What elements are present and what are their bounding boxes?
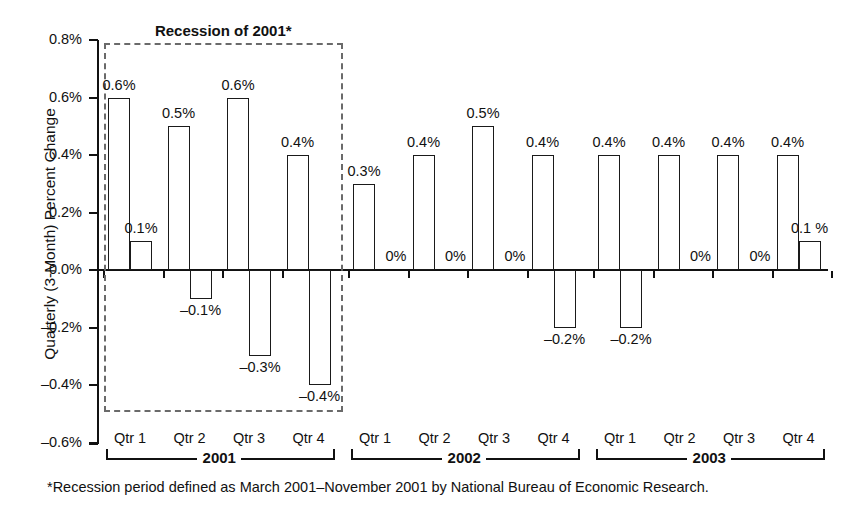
y-axis-tick-label: 0.0% — [20, 261, 82, 277]
bar-value-label: 0.4% — [700, 134, 756, 150]
bar-value-label: 0.1 % — [782, 220, 838, 236]
year-bracket-line — [351, 458, 442, 460]
x-axis-tick-mark — [772, 271, 774, 278]
x-axis-tick-mark — [653, 271, 655, 278]
bar-secondary — [554, 270, 576, 328]
year-label: 2001 — [189, 449, 249, 466]
bar-value-label: 0.4% — [581, 134, 637, 150]
x-axis-tick-mark — [467, 271, 469, 278]
y-axis-tick-label: 0.6% — [20, 89, 82, 105]
quarter-tick-label: Qtr 1 — [590, 430, 650, 446]
recession-label: Recession of 2001* — [104, 22, 343, 39]
quarter-tick-label: Qtr 1 — [100, 430, 160, 446]
bar-value-label: 0.1% — [113, 220, 169, 236]
bar-secondary — [799, 241, 821, 270]
bar-primary — [227, 98, 249, 271]
bar-value-label: 0.6% — [91, 77, 147, 93]
quarter-tick-label: Qtr 3 — [709, 430, 769, 446]
year-bracket-line — [731, 458, 822, 460]
quarter-tick-label: Qtr 2 — [160, 430, 220, 446]
bar-value-label: 0.4% — [515, 134, 571, 150]
year-bracket-line — [106, 458, 197, 460]
year-label: 2002 — [434, 449, 494, 466]
year-bracket-line — [596, 458, 687, 460]
y-axis-tick-label: –0.6% — [20, 434, 82, 450]
year-label: 2003 — [679, 449, 739, 466]
x-axis-tick-mark — [593, 271, 595, 278]
bar-secondary — [190, 270, 212, 299]
year-bracket-line — [241, 458, 332, 460]
bar-value-label: 0.4% — [641, 134, 697, 150]
bar-value-label: 0.4% — [760, 134, 816, 150]
bar-secondary — [249, 270, 271, 356]
bar-secondary — [620, 270, 642, 328]
bar-primary — [168, 126, 190, 270]
x-axis-tick-mark — [712, 271, 714, 278]
bar-value-label: 0.4% — [396, 134, 452, 150]
bar-primary — [287, 155, 309, 270]
quarter-tick-label: Qtr 2 — [650, 430, 710, 446]
x-axis-tick-mark — [408, 271, 410, 278]
bar-value-label: 0.3% — [336, 163, 392, 179]
y-axis-tick-label: 0.4% — [20, 146, 82, 162]
footnote-text: *Recession period defined as March 2001–… — [47, 479, 709, 495]
y-axis-tick-label: –0.4% — [20, 376, 82, 392]
quarter-tick-label: Qtr 2 — [405, 430, 465, 446]
quarter-tick-label: Qtr 3 — [219, 430, 279, 446]
year-bracket-tick — [333, 449, 335, 460]
bar-primary — [108, 98, 130, 271]
quarter-tick-label: Qtr 1 — [345, 430, 405, 446]
year-bracket-tick — [578, 449, 580, 460]
bar-value-label: 0.5% — [455, 105, 511, 121]
bar-value-label: –0.4% — [292, 388, 348, 404]
year-bracket-tick — [823, 449, 825, 460]
quarter-tick-label: Qtr 3 — [464, 430, 524, 446]
bar-value-label: 0.5% — [151, 105, 207, 121]
chart-canvas: Quarterly (3-Month) Percent Change 0.8%0… — [0, 0, 863, 516]
y-axis-line — [97, 40, 99, 444]
y-axis-tick-label: –0.2% — [20, 319, 82, 335]
bar-secondary — [309, 270, 331, 385]
bar-primary — [777, 155, 799, 270]
y-axis-tick-label: 0.8% — [20, 31, 82, 47]
x-axis-tick-mark — [348, 271, 350, 278]
x-axis-tick-mark — [527, 271, 529, 278]
year-bracket-line — [486, 458, 577, 460]
y-axis-tick-label: 0.2% — [20, 204, 82, 220]
quarter-tick-label: Qtr 4 — [279, 430, 339, 446]
bar-secondary — [130, 241, 152, 270]
bar-value-label: 0.6% — [210, 77, 266, 93]
quarter-tick-label: Qtr 4 — [524, 430, 584, 446]
bar-value-label: –0.1% — [173, 302, 229, 318]
bar-value-label: 0.4% — [270, 134, 326, 150]
bar-primary — [598, 155, 620, 270]
bar-value-label: –0.2% — [603, 331, 659, 347]
quarter-tick-label: Qtr 4 — [769, 430, 829, 446]
bar-value-label: –0.2% — [537, 331, 593, 347]
x-axis-tick-mark — [831, 271, 833, 278]
bar-value-label: –0.3% — [232, 359, 288, 375]
bar-primary — [532, 155, 554, 270]
